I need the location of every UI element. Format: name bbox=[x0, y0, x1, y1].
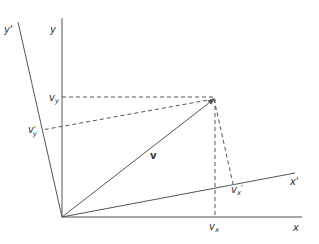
vector-v-label: v bbox=[150, 150, 157, 161]
vector-v bbox=[62, 99, 214, 217]
x-axis-label: x bbox=[292, 222, 299, 233]
vx-label: vx bbox=[209, 221, 220, 234]
rotation-diagram: y' y x x' v vy v'y vx vx' bbox=[0, 0, 319, 244]
vy-prime-projection bbox=[42, 99, 214, 130]
y-axis-label: y bbox=[49, 24, 57, 35]
y-prime-axis bbox=[18, 22, 62, 217]
vy-label: vy bbox=[49, 92, 60, 105]
diagram-canvas: y' y x x' v vy v'y vx vx' bbox=[0, 0, 319, 244]
vy-prime-label: v'y bbox=[28, 124, 38, 138]
vx-prime-projection bbox=[214, 99, 233, 184]
x-prime-axis bbox=[62, 173, 295, 217]
vx-prime-label: vx' bbox=[231, 184, 243, 197]
x-prime-axis-label: x' bbox=[289, 176, 299, 187]
y-prime-axis-label: y' bbox=[3, 24, 13, 35]
